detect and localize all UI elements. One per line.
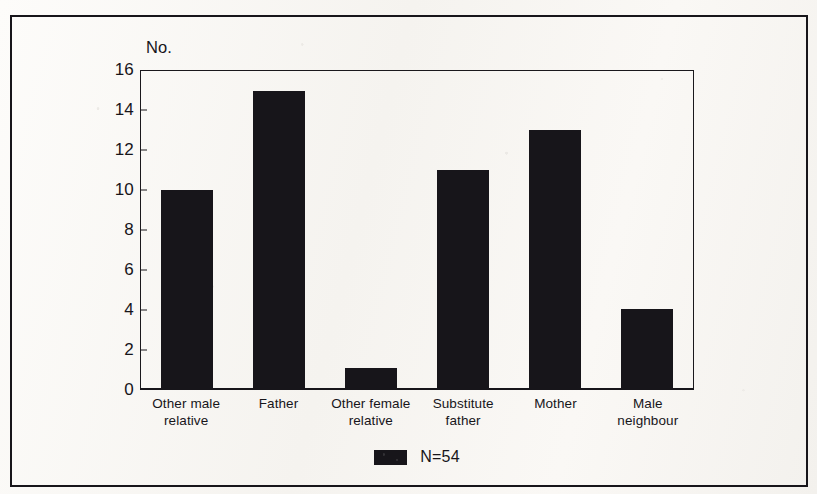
y-axis-tick-label: 4 (100, 300, 134, 320)
y-axis-tick-label: 2 (100, 340, 134, 360)
plot-area (140, 70, 694, 390)
bar-slot (601, 71, 693, 388)
chart-legend: N=54 (140, 448, 694, 466)
y-axis-tick-label: 12 (100, 140, 134, 160)
y-axis-tick-label: 8 (100, 220, 134, 240)
x-axis-category-label: Father (232, 396, 324, 429)
bar (161, 190, 213, 388)
y-axis-tick-label: 6 (100, 260, 134, 280)
legend-swatch-icon (374, 450, 407, 465)
bar-slot (233, 71, 325, 388)
y-axis-label: No. (146, 38, 172, 57)
bar (253, 91, 305, 388)
bar-slot (509, 71, 601, 388)
bar (437, 170, 489, 388)
bar-slot (325, 71, 417, 388)
y-axis-tick-label: 16 (100, 60, 134, 80)
bar (621, 309, 673, 388)
bar (529, 130, 581, 388)
x-axis-category-label: Other male relative (140, 396, 232, 429)
bar-series (141, 71, 693, 388)
y-axis-tick-label: 0 (100, 380, 134, 400)
bar-slot (141, 71, 233, 388)
legend-label: N=54 (420, 448, 460, 466)
x-axis-category-label: Male neighbour (602, 396, 694, 429)
x-axis-category-label: Substitute father (417, 396, 509, 429)
bar (345, 368, 397, 388)
y-axis-tick-label: 10 (100, 180, 134, 200)
y-axis-tick-labels: 1614121086420 (94, 70, 134, 390)
bar-slot (417, 71, 509, 388)
chart-page: No. 1614121086420 Other male relativeFat… (0, 0, 817, 494)
y-axis-tick-label: 14 (100, 100, 134, 120)
x-axis-category-labels: Other male relativeFatherOther female re… (140, 396, 694, 429)
x-axis-category-label: Mother (509, 396, 601, 429)
x-axis-category-label: Other female relative (325, 396, 417, 429)
